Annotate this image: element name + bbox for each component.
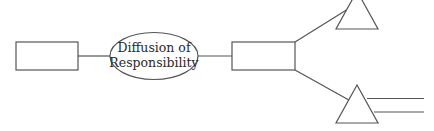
lower-triangle [336,85,378,123]
ellipse-label-line-1: Diffusion of [117,40,191,55]
middle-box [232,42,295,70]
center-ellipse: Diffusion of Responsibility [109,33,199,80]
ellipse-label-line-2: Responsibility [109,55,199,70]
edge-middle-box-to-lower-triangle [295,70,356,104]
left-box [16,42,78,70]
upper-triangle [336,0,378,29]
diagram-canvas: Diffusion of Responsibility [0,0,434,131]
